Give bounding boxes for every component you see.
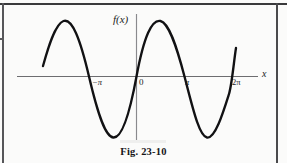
y-axis-label: f(x) — [113, 14, 128, 25]
figure-page: f(x) x −π 0 π 2π Fig. 23-10 — [0, 0, 287, 163]
plot-area: f(x) x −π 0 π 2π — [0, 0, 287, 145]
x-tick-label-zero: 0 — [139, 78, 144, 87]
figure-caption: Fig. 23-10 — [0, 146, 287, 157]
x-tick-label-pi: π — [185, 78, 189, 87]
sine-curve-plot — [0, 0, 287, 145]
x-tick-label-two-pi: 2π — [232, 78, 241, 87]
x-axis-label: x — [262, 69, 266, 79]
x-tick-label-neg-pi: −π — [92, 78, 102, 87]
